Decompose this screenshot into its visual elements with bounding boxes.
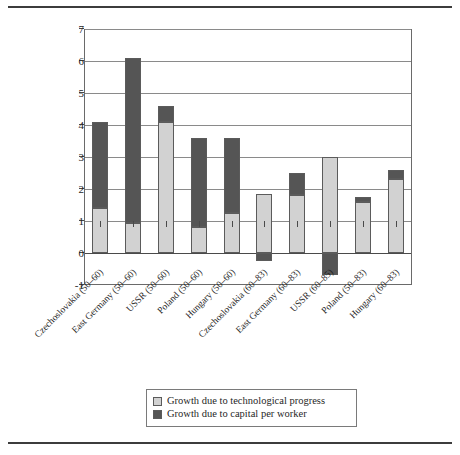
bar-segment-capital-per-worker — [289, 173, 305, 195]
x-tick-mark — [100, 221, 101, 227]
bar-group — [388, 29, 404, 285]
bar-segment-capital-per-worker — [256, 253, 272, 261]
bar-group — [355, 29, 371, 285]
x-tick-mark — [166, 221, 167, 227]
bar-segment-capital-per-worker — [224, 138, 240, 213]
y-axis: -101234567 — [52, 29, 84, 285]
bar-segment-technological-progress — [92, 208, 108, 253]
bar-group — [158, 29, 174, 285]
bar-segment-capital-per-worker — [322, 253, 338, 275]
bar-segment-capital-per-worker — [158, 106, 174, 122]
y-tick-label: 4 — [62, 120, 84, 131]
x-tick-mark — [264, 221, 265, 227]
x-tick-mark — [297, 221, 298, 227]
y-tick-label: 0 — [62, 248, 84, 259]
bar-segment-capital-per-worker — [388, 170, 404, 180]
x-tick-mark — [396, 221, 397, 227]
bar-segment-capital-per-worker — [92, 122, 108, 208]
x-tick-mark — [363, 221, 364, 227]
x-tick-mark — [330, 221, 331, 227]
bar-segment-technological-progress — [158, 122, 174, 253]
legend-swatch-dark-icon — [153, 410, 162, 419]
y-tick-label: 6 — [62, 56, 84, 67]
legend-item-technological-progress: Growth due to technological progress — [153, 395, 350, 407]
bar-segment-capital-per-worker — [355, 197, 371, 202]
bar-group — [256, 29, 272, 285]
y-tick-label: 3 — [62, 152, 84, 163]
chart-legend: Growth due to technological progress Gro… — [146, 389, 357, 427]
x-tick-mark — [199, 221, 200, 227]
y-tick-label: -1 — [62, 280, 84, 291]
bar-series-layer — [84, 29, 412, 285]
bar-group — [125, 29, 141, 285]
bar-segment-technological-progress — [322, 157, 338, 253]
bar-group — [191, 29, 207, 285]
y-tick-label: 7 — [62, 24, 84, 35]
legend-item-capital-per-worker: Growth due to capital per worker — [153, 408, 350, 420]
y-tick-label: 1 — [62, 216, 84, 227]
bar-group — [289, 29, 305, 285]
y-tick-label: 2 — [62, 184, 84, 195]
legend-swatch-light-icon — [153, 397, 162, 406]
legend-label-capital-per-worker: Growth due to capital per worker — [167, 408, 307, 420]
bar-group — [92, 29, 108, 285]
bar-segment-technological-progress — [191, 227, 207, 253]
x-axis-ticks — [84, 221, 412, 229]
bar-group — [224, 29, 240, 285]
legend-label-technological-progress: Growth due to technological progress — [167, 395, 325, 407]
bar-segment-technological-progress — [388, 179, 404, 253]
x-tick-mark — [133, 221, 134, 227]
bar-segment-capital-per-worker — [125, 58, 141, 223]
y-tick-label: 5 — [62, 88, 84, 99]
bar-group — [322, 29, 338, 285]
bar-segment-capital-per-worker — [191, 138, 207, 228]
bar-segment-technological-progress — [224, 213, 240, 253]
stacked-bar-chart-figure: -101234567 Czechoslovakia (50–60)East Ge… — [0, 0, 460, 455]
x-tick-mark — [232, 221, 233, 227]
